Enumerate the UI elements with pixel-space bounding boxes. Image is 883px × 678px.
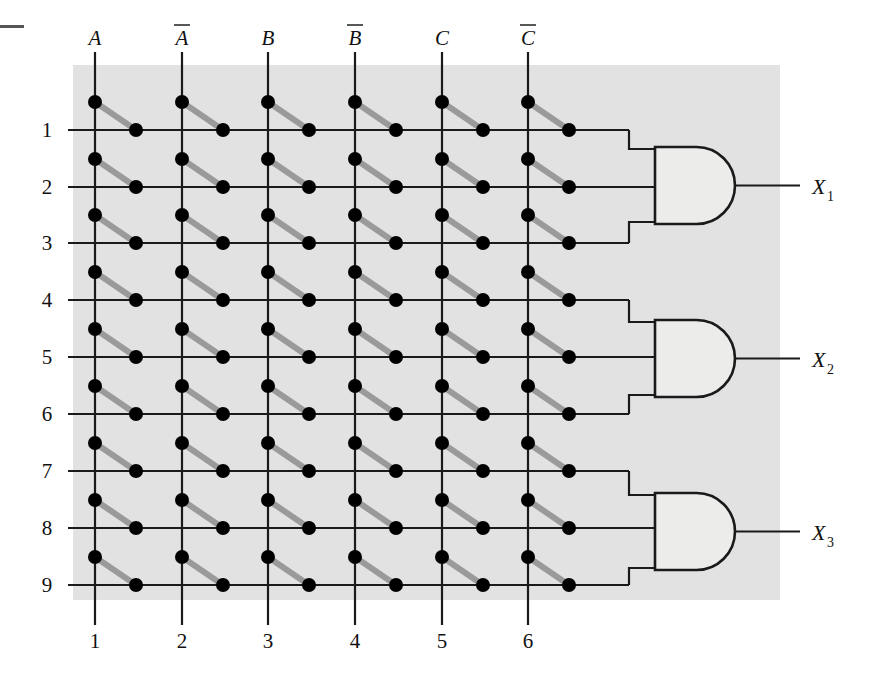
and-gate-1-output-subscript: 1 xyxy=(827,189,834,204)
row-number-label-5: 5 xyxy=(42,345,53,369)
row-number-label-1: 1 xyxy=(42,118,53,142)
and-gate-2-output-label: X xyxy=(811,347,827,372)
fuse-link-r1-c6-row-dot xyxy=(562,123,576,137)
row-number-labels: 123456789 xyxy=(42,118,53,597)
fuse-link-r5-c5-row-dot xyxy=(476,350,490,364)
fuse-link-r4-c3-column-dot xyxy=(261,265,275,279)
fuse-link-r3-c5-column-dot xyxy=(435,208,449,222)
fuse-link-r8-c4-column-dot xyxy=(348,493,362,507)
input-label-1: A xyxy=(87,26,102,50)
fuse-link-r7-c2-column-dot xyxy=(175,436,189,450)
and-gate-2-output-subscript: 2 xyxy=(827,362,834,377)
row-number-label-7: 7 xyxy=(42,459,53,483)
fuse-link-r1-c5-row-dot xyxy=(476,123,490,137)
fuse-link-r3-c2-column-dot xyxy=(175,208,189,222)
fuse-link-r8-c3-row-dot xyxy=(302,521,316,535)
fuse-link-r7-c6-column-dot xyxy=(521,436,535,450)
fuse-link-r6-c5-column-dot xyxy=(435,379,449,393)
fuse-link-r1-c6-column-dot xyxy=(521,95,535,109)
fuse-link-r6-c3-row-dot xyxy=(302,407,316,421)
fuse-link-r5-c4-row-dot xyxy=(389,350,403,364)
fuse-link-r9-c2-column-dot xyxy=(175,550,189,564)
fuse-link-r1-c5-column-dot xyxy=(435,95,449,109)
fuse-link-r9-c1-column-dot xyxy=(88,550,102,564)
pla-diagram-figure: AABBCC123456789123456X1X2X3 xyxy=(0,0,883,678)
fuse-link-r2-c5-column-dot xyxy=(435,152,449,166)
fuse-link-r7-c2-row-dot xyxy=(216,464,230,478)
fuse-link-r1-c2-column-dot xyxy=(175,95,189,109)
column-number-labels: 123456 xyxy=(90,629,534,653)
fuse-link-r5-c6-row-dot xyxy=(562,350,576,364)
fuse-link-r4-c2-row-dot xyxy=(216,293,230,307)
fuse-link-r3-c6-row-dot xyxy=(562,236,576,250)
fuse-link-r8-c1-row-dot xyxy=(129,521,143,535)
fuse-link-r8-c1-column-dot xyxy=(88,493,102,507)
fuse-link-r3-c5-row-dot xyxy=(476,236,490,250)
fuse-link-r5-c4-column-dot xyxy=(348,322,362,336)
row-number-label-8: 8 xyxy=(42,516,53,540)
fuse-link-r7-c5-column-dot xyxy=(435,436,449,450)
fuse-link-r2-c1-row-dot xyxy=(129,180,143,194)
input-label-3: B xyxy=(262,26,275,50)
fuse-link-r1-c1-column-dot xyxy=(88,95,102,109)
fuse-link-r3-c2-row-dot xyxy=(216,236,230,250)
fuse-link-r7-c4-row-dot xyxy=(389,464,403,478)
fuse-link-r5-c5-column-dot xyxy=(435,322,449,336)
fuse-link-r4-c6-row-dot xyxy=(562,293,576,307)
fuse-link-r6-c2-row-dot xyxy=(216,407,230,421)
fuse-link-r3-c3-row-dot xyxy=(302,236,316,250)
fuse-link-r4-c1-row-dot xyxy=(129,293,143,307)
fuse-link-r4-c2-column-dot xyxy=(175,265,189,279)
fuse-link-r2-c2-row-dot xyxy=(216,180,230,194)
and-gate-1-body[interactable] xyxy=(655,147,735,224)
fuse-link-r2-c4-row-dot xyxy=(389,180,403,194)
row-number-label-6: 6 xyxy=(42,402,53,426)
fuse-link-r6-c4-row-dot xyxy=(389,407,403,421)
fuse-link-r1-c1-row-dot xyxy=(129,123,143,137)
and-gate-2-body[interactable] xyxy=(655,320,735,397)
column-number-label-2: 2 xyxy=(177,629,188,653)
fuse-link-r3-c6-column-dot xyxy=(521,208,535,222)
fuse-link-r7-c3-column-dot xyxy=(261,436,275,450)
fuse-link-r2-c1-column-dot xyxy=(88,152,102,166)
and-gate-1-output-label: X xyxy=(811,174,827,199)
fuse-link-r6-c5-row-dot xyxy=(476,407,490,421)
fuse-link-r9-c4-column-dot xyxy=(348,550,362,564)
pla-diagram-canvas: AABBCC123456789123456X1X2X3 xyxy=(0,0,883,678)
fuse-link-r7-c4-column-dot xyxy=(348,436,362,450)
fuse-link-r6-c1-column-dot xyxy=(88,379,102,393)
input-labels: AABBCC xyxy=(87,25,536,50)
fuse-link-r2-c3-column-dot xyxy=(261,152,275,166)
fuse-link-r9-c5-column-dot xyxy=(435,550,449,564)
fuse-link-r2-c6-column-dot xyxy=(521,152,535,166)
fuse-link-r8-c5-row-dot xyxy=(476,521,490,535)
row-number-label-4: 4 xyxy=(42,288,53,312)
fuse-link-r1-c2-row-dot xyxy=(216,123,230,137)
input-label-2: A xyxy=(174,26,189,50)
fuse-link-r1-c4-row-dot xyxy=(389,123,403,137)
fuse-link-r2-c5-row-dot xyxy=(476,180,490,194)
row-number-label-9: 9 xyxy=(42,573,53,597)
fuse-link-r3-c4-column-dot xyxy=(348,208,362,222)
fuse-link-r6-c2-column-dot xyxy=(175,379,189,393)
fuse-link-r6-c6-row-dot xyxy=(562,407,576,421)
fuse-link-r6-c3-column-dot xyxy=(261,379,275,393)
fuse-link-r2-c4-column-dot xyxy=(348,152,362,166)
column-number-label-3: 3 xyxy=(263,629,274,653)
fuse-link-r9-c3-row-dot xyxy=(302,578,316,592)
fuse-link-r9-c4-row-dot xyxy=(389,578,403,592)
fuse-link-r1-c3-row-dot xyxy=(302,123,316,137)
fuse-link-r7-c5-row-dot xyxy=(476,464,490,478)
fuse-link-r8-c2-column-dot xyxy=(175,493,189,507)
fuse-link-r1-c3-column-dot xyxy=(261,95,275,109)
and-gate-3-output-subscript: 3 xyxy=(827,535,834,550)
column-number-label-1: 1 xyxy=(90,629,101,653)
fuse-link-r8-c5-column-dot xyxy=(435,493,449,507)
row-number-label-2: 2 xyxy=(42,175,53,199)
fuse-link-r2-c2-column-dot xyxy=(175,152,189,166)
fuse-link-r5-c3-row-dot xyxy=(302,350,316,364)
fuse-link-r8-c3-column-dot xyxy=(261,493,275,507)
fuse-link-r8-c4-row-dot xyxy=(389,521,403,535)
crop-mark-dash-icon xyxy=(0,25,24,28)
and-gate-3-body[interactable] xyxy=(655,493,735,570)
